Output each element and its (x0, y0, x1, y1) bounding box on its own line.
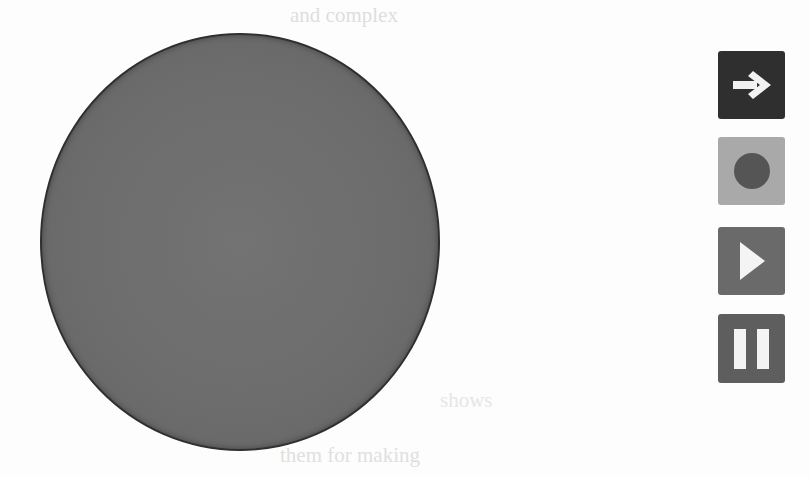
ghost-text-line (0, 30, 810, 58)
ghost-text-line (0, 415, 810, 443)
ghost-text-line: and complex (0, 2, 810, 30)
play-button[interactable] (718, 227, 785, 295)
next-button[interactable] (718, 51, 785, 119)
stage: and complex shows them for making (0, 0, 810, 477)
play-icon (737, 241, 767, 281)
ghost-text-line: them for making (0, 442, 810, 470)
pause-icon (733, 328, 771, 370)
pause-button[interactable] (718, 314, 785, 383)
record-button[interactable] (718, 137, 785, 205)
arrow-right-icon (731, 68, 773, 102)
record-dot-icon (733, 152, 771, 190)
drawing-circle[interactable] (40, 33, 440, 451)
